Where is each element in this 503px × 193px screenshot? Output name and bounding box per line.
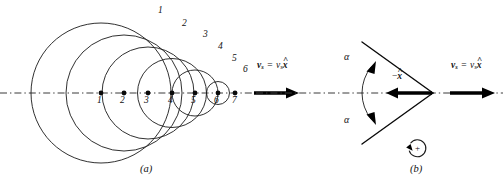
velocity-arrow-panel-b	[450, 88, 495, 99]
source-position-label-6: 6	[214, 96, 219, 106]
source-position-label-2: 2	[120, 96, 125, 106]
wavefront-label-5: 5	[232, 54, 237, 64]
wavefront-label-6: 6	[243, 65, 248, 75]
velocity-equals-a: =	[264, 60, 276, 70]
source-position-label-5: 5	[191, 96, 196, 106]
source-position-label-3: 3	[144, 96, 149, 106]
source-position-label-4: 4	[168, 96, 173, 106]
back-unit-vector-label: −x	[392, 72, 402, 82]
wavefront-label-4: 4	[218, 42, 223, 52]
source-position-label-7: 7	[232, 96, 237, 106]
velocity-vector-label-panel-a: vs = vsx	[257, 61, 287, 71]
wavefront-label-3: 3	[203, 30, 208, 40]
sense-arrow-head	[406, 144, 412, 151]
unit-vector-x-b: x	[477, 61, 482, 71]
panel-caption-a: (a)	[140, 164, 152, 175]
back-unit-vector-arrow	[386, 88, 432, 99]
unit-vector-x-a: x	[283, 61, 288, 71]
source-position-label-1: 1	[97, 96, 102, 106]
unit-vector-x-back: x	[397, 72, 402, 82]
angle-arc-upper-group	[362, 61, 376, 93]
wavefront-label-1: 1	[158, 6, 163, 16]
wavefront-label-2: 2	[182, 19, 187, 29]
angle-label-lower: α	[344, 115, 349, 125]
angle-label-upper: α	[344, 52, 349, 62]
panel-a-group	[0, 23, 299, 163]
velocity-vector-label-panel-b: vs = vsx	[451, 61, 481, 71]
panel-caption-b: (b)	[410, 164, 422, 175]
figure-root: 1 2 3 4 5 6 7 1 2 3 4 5 6 vs = vsx α α −…	[0, 0, 503, 193]
figure-canvas	[0, 0, 503, 193]
velocity-equals-b: =	[458, 60, 470, 70]
positive-sense-plus-label: +	[415, 144, 420, 153]
angle-arc-lower-group	[362, 93, 376, 125]
